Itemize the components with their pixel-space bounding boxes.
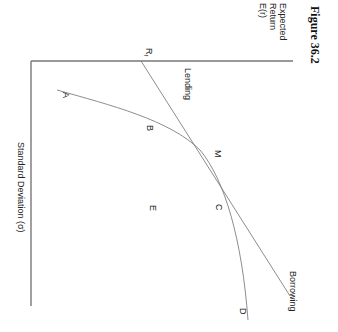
point-d-label: D [238,308,248,315]
y-axis-label-line3: E(r) [258,3,268,18]
figure-title: Figure 36.2 [308,6,322,64]
point-b-label: B [145,125,155,131]
lending-label: Lending [183,68,193,100]
point-e-label: E [148,205,158,211]
y-axis-label-line1: Expected [278,3,288,41]
point-c-label: C [214,204,224,211]
x-axis-label: Standard Deviation (σ) [16,142,26,233]
capital-market-line [141,61,290,296]
point-m-label: M [213,150,223,158]
rf-label: Rf [143,48,154,57]
y-axis-label-line2: Return [268,3,278,30]
figure-canvas: Figure 36.2 Expected Return E(r) Standar… [0,0,338,332]
point-a-label: A [61,92,71,98]
borrowing-label: Borrowing [288,271,298,312]
